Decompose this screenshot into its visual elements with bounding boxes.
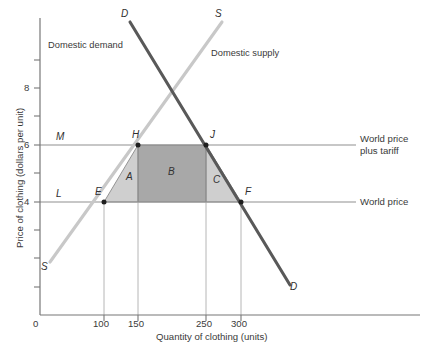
supply-curve-bottom-label: S — [41, 261, 48, 272]
point-label-f: F — [245, 186, 251, 197]
y-axis-ticks — [34, 60, 40, 287]
demand-curve-bottom-label: D — [290, 281, 297, 292]
legend-label-world-price-plus-tariff-line1: World price — [360, 133, 408, 145]
x-tick-label-100: 100 — [93, 318, 109, 329]
x-axis-title: Quantity of clothing (units) — [156, 331, 267, 342]
x-tick-label-300: 300 — [231, 318, 247, 329]
point-dot-j — [204, 143, 209, 148]
x-tick-label-150: 150 — [128, 318, 144, 329]
point-label-j: J — [210, 129, 215, 140]
x-axis-ticks — [104, 315, 241, 321]
axis-marker-m-label: M — [56, 131, 64, 142]
supply-curve — [50, 22, 222, 262]
legend-label-world-price: World price — [360, 196, 408, 208]
point-dot-h — [136, 143, 141, 148]
point-label-e: E — [95, 186, 102, 197]
point-dot-e — [102, 200, 107, 205]
supply-curve-top-label: S — [215, 8, 222, 19]
supply-demand-tariff-figure: D S S D Domestic demand Domestic supply … — [0, 0, 422, 346]
x-tick-label-250: 250 — [196, 318, 212, 329]
y-tick-label-0: 0 — [33, 318, 38, 329]
region-label-c: C — [213, 174, 220, 185]
point-dot-f — [239, 200, 244, 205]
y-axis-title: Price of clothing (dollars per unit) — [14, 48, 25, 248]
domestic-supply-annotation: Domestic supply — [211, 48, 279, 59]
domestic-demand-annotation: Domestic demand — [48, 40, 123, 51]
axis-marker-l-label: L — [56, 188, 62, 199]
region-label-a: A — [126, 171, 133, 182]
point-label-h: H — [132, 129, 139, 140]
region-label-b: B — [168, 166, 175, 177]
drop-lines — [104, 202, 241, 315]
demand-curve-top-label: D — [121, 8, 128, 19]
legend-label-world-price-plus-tariff-line2: plus tariff — [360, 145, 399, 157]
